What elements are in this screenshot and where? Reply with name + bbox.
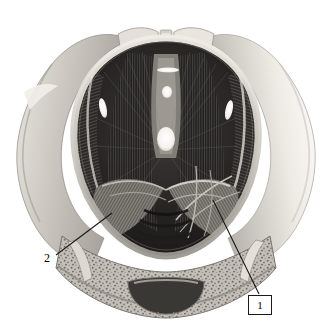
midline-slit-superior-aperture xyxy=(157,67,179,72)
callout-label-1[interactable]: 1 xyxy=(248,295,272,315)
midline-oval-superior-aperture xyxy=(162,86,172,98)
callout-label-2[interactable]: 2 xyxy=(44,252,50,264)
pelvic-floor-illustration xyxy=(0,0,329,336)
central-hiatus-aperture xyxy=(157,127,175,151)
anatomy-figure: 1 2 xyxy=(0,0,329,336)
